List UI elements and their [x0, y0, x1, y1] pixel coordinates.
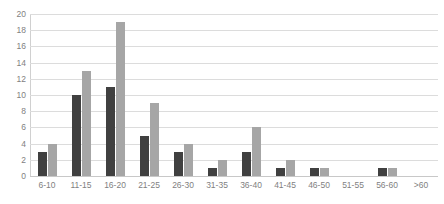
bar	[378, 168, 387, 176]
bar-group	[98, 14, 132, 176]
bar-group	[268, 14, 302, 176]
x-axis-tick-label: 56-60	[370, 181, 404, 197]
y-axis-tick-label: 18	[2, 26, 26, 35]
bar	[106, 87, 115, 176]
bar-group	[370, 14, 404, 176]
bar-group	[302, 14, 336, 176]
bar-group	[200, 14, 234, 176]
x-axis-tick-label: 41-45	[268, 181, 302, 197]
y-axis-tick-label: 6	[2, 123, 26, 132]
x-axis-tick-label: 46-50	[302, 181, 336, 197]
bar	[286, 160, 295, 176]
x-axis-tick-label: 6-10	[30, 181, 64, 197]
x-axis-tick-label: 11-15	[64, 181, 98, 197]
plot-area	[30, 14, 438, 176]
x-axis-tick-label: >60	[404, 181, 438, 197]
bar-chart: 02468101214161820 6-1011-1516-2021-2526-…	[0, 0, 444, 204]
y-axis-tick-label: 2	[2, 156, 26, 165]
bar	[38, 152, 47, 176]
bar	[388, 168, 397, 176]
x-axis-tick-label: 51-55	[336, 181, 370, 197]
y-axis-tick-label: 14	[2, 59, 26, 68]
bar	[82, 71, 91, 176]
y-axis-tick-label: 8	[2, 107, 26, 116]
x-axis-tick-label: 26-30	[166, 181, 200, 197]
y-axis-tick-label: 12	[2, 75, 26, 84]
x-axis-tick-label: 36-40	[234, 181, 268, 197]
bar	[252, 127, 261, 176]
bar	[276, 168, 285, 176]
x-axis-tick-label: 21-25	[132, 181, 166, 197]
y-axis-tick-label: 10	[2, 91, 26, 100]
y-axis-tick-label: 16	[2, 42, 26, 51]
bar	[242, 152, 251, 176]
bar-group	[234, 14, 268, 176]
bar	[184, 144, 193, 176]
bar	[150, 103, 159, 176]
gridline	[30, 176, 438, 177]
bar-group	[404, 14, 438, 176]
y-axis-tick-label: 0	[2, 172, 26, 181]
bar	[140, 136, 149, 177]
bar-group	[132, 14, 166, 176]
bar	[116, 22, 125, 176]
y-axis-tick-label: 4	[2, 140, 26, 149]
bar-group	[166, 14, 200, 176]
bar	[174, 152, 183, 176]
bar	[208, 168, 217, 176]
y-axis-tick-label: 20	[2, 10, 26, 19]
bar	[310, 168, 319, 176]
bar-group	[30, 14, 64, 176]
y-axis-tick-labels: 02468101214161820	[0, 14, 26, 176]
bar-group	[64, 14, 98, 176]
x-axis-tick-label: 31-35	[200, 181, 234, 197]
bar-groups	[30, 14, 438, 176]
x-axis-tick-label: 16-20	[98, 181, 132, 197]
bar	[320, 168, 329, 176]
x-axis-tick-labels: 6-1011-1516-2021-2526-3031-3536-4041-454…	[30, 181, 438, 197]
bar	[218, 160, 227, 176]
bar	[72, 95, 81, 176]
bar	[48, 144, 57, 176]
bar-group	[336, 14, 370, 176]
